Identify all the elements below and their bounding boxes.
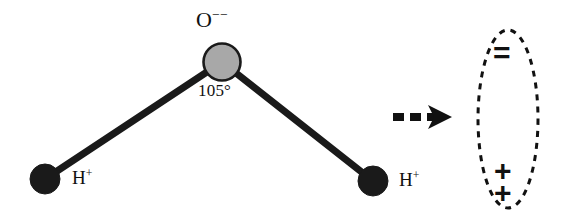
hydrogen-left-element-symbol: H bbox=[72, 167, 86, 188]
bond-oxygen-hydrogen-right bbox=[222, 62, 373, 181]
atom-hydrogen-right bbox=[358, 166, 388, 196]
bond-angle-label: 105° bbox=[198, 82, 231, 99]
implication-arrow bbox=[393, 105, 452, 129]
hydrogen-left-label: H+ bbox=[72, 168, 93, 187]
oxygen-atom-label: O−− bbox=[196, 8, 228, 31]
oxygen-charge-superscript: −− bbox=[212, 7, 228, 22]
dipole-positive-charge-label-2: + bbox=[494, 178, 512, 208]
atom-hydrogen-left bbox=[30, 164, 60, 194]
atom-oxygen bbox=[204, 44, 241, 81]
hydrogen-right-charge-superscript: + bbox=[413, 169, 420, 182]
bond-oxygen-hydrogen-left bbox=[45, 62, 222, 179]
oxygen-element-symbol: O bbox=[196, 7, 212, 32]
hydrogen-right-label: H+ bbox=[399, 170, 420, 189]
hydrogen-left-charge-superscript: + bbox=[86, 167, 93, 180]
diagram-canvas: O−− 105° H+ H+ = + + bbox=[0, 0, 561, 214]
hydrogen-right-element-symbol: H bbox=[399, 169, 413, 190]
dipole-negative-charge-label: = bbox=[493, 38, 511, 68]
